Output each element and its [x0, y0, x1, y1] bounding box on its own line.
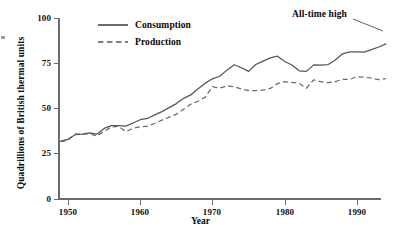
- axis-lines: [59, 18, 381, 199]
- y-axis-title: Quadrillions of British thermal units: [16, 18, 26, 208]
- y-tick-marks: [54, 18, 59, 199]
- plot-area-svg: [0, 0, 401, 238]
- ytick-label-0: 0: [24, 194, 51, 204]
- ytick-label-75: 75: [24, 58, 51, 68]
- chart-figure: 100 75 50 25 0 1950 1960 1970 1980 1990 …: [0, 0, 401, 238]
- x-axis-title: Year: [0, 216, 401, 226]
- legend-label-consumption: Consumption: [135, 20, 191, 30]
- annotation-leader-line: [353, 19, 383, 31]
- ytick-label-50: 50: [24, 103, 51, 113]
- ytick-label-100: 100: [24, 13, 51, 23]
- x-tick-marks: [68, 199, 357, 205]
- annotation-all-time-high: All-time high: [292, 9, 347, 19]
- legend-label-production: Production: [135, 37, 181, 47]
- series-line-consumption: [61, 44, 386, 141]
- series-line-production: [61, 77, 386, 142]
- ytick-label-25: 25: [24, 148, 51, 158]
